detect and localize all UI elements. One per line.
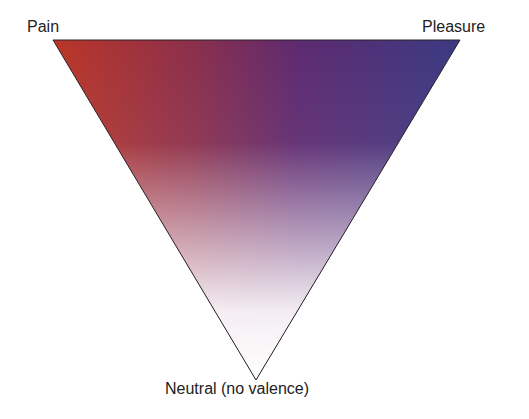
pain-label: Pain (27, 18, 59, 36)
valence-triangle-diagram (0, 0, 529, 419)
triangle-fade (53, 40, 460, 380)
pleasure-label: Pleasure (422, 18, 485, 36)
neutral-label: Neutral (no valence) (165, 380, 309, 398)
